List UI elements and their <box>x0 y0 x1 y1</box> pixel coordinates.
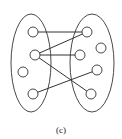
node-L3 <box>18 67 28 77</box>
edge-L2-R5 <box>35 55 91 94</box>
node-R4 <box>92 65 102 75</box>
figure-caption: (c) <box>0 125 122 135</box>
node-R3 <box>96 43 106 53</box>
node-L2 <box>30 50 40 60</box>
node-R2 <box>75 50 85 60</box>
bipartite-graph-diagram <box>0 0 122 139</box>
node-L4 <box>28 89 38 99</box>
node-R5 <box>86 89 96 99</box>
node-L1 <box>28 27 38 37</box>
node-R1 <box>82 27 92 37</box>
